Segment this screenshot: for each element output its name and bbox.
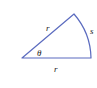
angle-label: θ [37, 48, 42, 58]
sector-diagram: r s θ r [0, 0, 97, 88]
radius-label-upper: r [46, 23, 50, 33]
sector-outline [22, 14, 91, 58]
arc-length-label: s [90, 26, 94, 36]
radius-label-lower: r [54, 64, 58, 74]
